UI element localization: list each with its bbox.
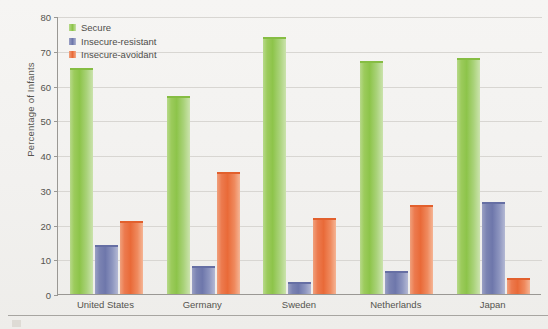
bar-cap — [507, 278, 530, 280]
bar-united-states-insecure-resistant — [95, 245, 118, 294]
figure-canvas: Percentage of Infants 01020304050607080 … — [0, 0, 548, 329]
legend-item-insecure-resistant: Insecure-resistant — [69, 35, 157, 49]
x-axis-tick-label: Japan — [444, 299, 541, 310]
legend-swatch-insecure-avoidant — [69, 51, 76, 58]
x-axis-tick-label: United States — [57, 299, 154, 310]
bar-group — [445, 16, 542, 294]
bar-sweden-insecure-resistant — [288, 282, 311, 294]
bar-group — [155, 16, 252, 294]
y-axis-tick-label: 50 — [40, 116, 51, 127]
bar-cap — [360, 61, 383, 63]
y-axis-tick-label: 60 — [40, 81, 51, 92]
bar-netherlands-secure — [360, 61, 383, 294]
bar-japan-insecure-resistant — [482, 202, 505, 294]
y-axis-tick-label: 0 — [46, 290, 51, 301]
bar-cap — [95, 245, 118, 247]
bar-sweden-insecure-avoidant — [313, 218, 336, 294]
bar-germany-insecure-resistant — [192, 266, 215, 294]
bar-cap — [120, 221, 143, 223]
bar-group — [252, 16, 349, 294]
bar-germany-secure — [167, 96, 190, 294]
bar-cap — [410, 205, 433, 207]
bar-netherlands-insecure-resistant — [385, 271, 408, 294]
y-axis-tick-label: 40 — [40, 151, 51, 162]
y-axis-tick-mark — [54, 295, 58, 296]
bar-cap — [482, 202, 505, 204]
x-axis-tick-label: Germany — [154, 299, 251, 310]
bar-united-states-insecure-avoidant — [120, 221, 143, 294]
bar-japan-secure — [457, 58, 480, 294]
bar-sweden-secure — [263, 37, 286, 294]
y-axis-tick-label: 80 — [40, 12, 51, 23]
bar-united-states-secure — [70, 68, 93, 294]
page-corner-mark — [12, 320, 21, 327]
legend-swatch-insecure-resistant — [69, 38, 76, 45]
bar-cap — [288, 282, 311, 284]
bar-germany-insecure-avoidant — [217, 172, 240, 294]
y-axis-tick-label: 20 — [40, 220, 51, 231]
bar-cap — [192, 266, 215, 268]
bar-cap — [385, 271, 408, 273]
gridline — [58, 295, 542, 296]
legend-item-insecure-avoidant: Insecure-avoidant — [69, 48, 157, 62]
legend-label-insecure-avoidant: Insecure-avoidant — [81, 48, 157, 62]
legend-item-secure: Secure — [69, 21, 157, 35]
y-axis-tick-label: 30 — [40, 185, 51, 196]
bar-group — [348, 16, 445, 294]
y-axis-title: Percentage of Infants — [25, 20, 36, 200]
x-axis-tick-label: Sweden — [251, 299, 348, 310]
legend-label-secure: Secure — [81, 21, 111, 35]
y-axis-tick-label: 10 — [40, 255, 51, 266]
bar-cap — [167, 96, 190, 98]
bar-cap — [217, 172, 240, 174]
bar-cap — [457, 58, 480, 60]
chart-legend: Secure Insecure-resistant Insecure-avoid… — [69, 21, 157, 62]
bar-cap — [70, 68, 93, 70]
bar-cap — [263, 37, 286, 39]
x-axis-labels: United StatesGermanySwedenNetherlandsJap… — [57, 299, 541, 310]
legend-label-insecure-resistant: Insecure-resistant — [81, 35, 157, 49]
bar-cap — [313, 218, 336, 220]
legend-swatch-secure — [69, 24, 76, 31]
y-axis-tick-label: 70 — [40, 46, 51, 57]
footer-rule — [8, 315, 548, 316]
bar-netherlands-insecure-avoidant — [410, 205, 433, 294]
bar-japan-insecure-avoidant — [507, 278, 530, 294]
x-axis-tick-label: Netherlands — [347, 299, 444, 310]
